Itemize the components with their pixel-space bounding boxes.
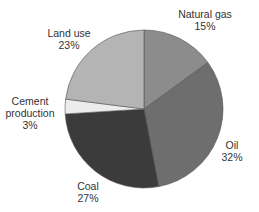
slice-percent: 32% — [221, 151, 242, 163]
slice-percent: 23% — [47, 39, 90, 51]
slice-label: Oil32% — [221, 139, 242, 163]
slice-name: Land use — [47, 27, 90, 39]
slice-name: Natural gas — [178, 8, 232, 20]
slice-name: Oil — [221, 139, 242, 151]
slice-label: Coal27% — [77, 180, 99, 204]
slice-percent: 15% — [178, 20, 232, 32]
slice-name: Cement — [5, 95, 54, 107]
slice-label: Natural gas15% — [178, 8, 232, 32]
slice-percent: 27% — [77, 192, 99, 204]
slice-name: Coal — [77, 180, 99, 192]
slice-percent: 3% — [5, 119, 54, 131]
slice-name: production — [5, 107, 54, 119]
slice-label: Cementproduction3% — [5, 95, 54, 131]
slice-label: Land use23% — [47, 27, 90, 51]
pie-slice-coal — [65, 109, 159, 188]
